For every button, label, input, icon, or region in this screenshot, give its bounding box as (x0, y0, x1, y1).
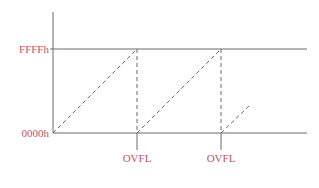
ramp-3 (221, 105, 250, 133)
label-overflow-2: OVFL (207, 152, 236, 164)
timer-overflow-diagram: FFFFh 0000h OVFL OVFL (0, 0, 319, 188)
label-min-value: 0000h (22, 127, 50, 139)
label-overflow-1: OVFL (123, 152, 152, 164)
ramp-2 (137, 49, 221, 133)
label-max-value: FFFFh (19, 43, 49, 55)
ramp-1 (53, 49, 137, 133)
